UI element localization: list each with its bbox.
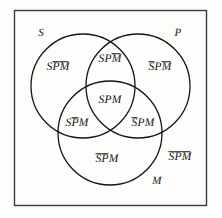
region-outside-all: SPM bbox=[169, 152, 192, 164]
region-term-m-bar: M bbox=[162, 62, 172, 74]
region-term-m-bar: M bbox=[112, 54, 122, 66]
region-term-m: M bbox=[112, 94, 122, 106]
region-term-m: M bbox=[109, 153, 119, 165]
region-term-m-bar: M bbox=[60, 62, 70, 74]
circle-label-m: M bbox=[152, 176, 161, 187]
region-term-m-bar: M bbox=[182, 152, 192, 164]
region-p-only: SPM bbox=[149, 62, 172, 74]
circle-label-s: S bbox=[38, 28, 44, 39]
region-term-s-bar: S bbox=[132, 118, 138, 130]
region-term-p-bar: P bbox=[101, 154, 108, 166]
region-s-only: SPM bbox=[47, 62, 70, 74]
region-term-m: M bbox=[145, 117, 155, 129]
region-m-only: SPM bbox=[96, 154, 119, 166]
region-spm-center: SPM bbox=[99, 95, 122, 107]
region-term-p-bar: P bbox=[71, 118, 78, 130]
region-sp-not-m: SPM bbox=[99, 54, 122, 66]
region-sm-not-p: SPM bbox=[66, 118, 89, 130]
region-pm-not-s: SPM bbox=[132, 118, 155, 130]
region-term-s-bar: S bbox=[149, 62, 155, 74]
venn-diagram-canvas bbox=[0, 0, 222, 218]
venn-diagram-figure: S P M SPM SPM SPM SPM SPM SPM SPM SPM bbox=[0, 0, 222, 218]
region-term-m: M bbox=[79, 117, 89, 129]
circle-label-p: P bbox=[175, 28, 182, 39]
universe-box bbox=[15, 11, 207, 206]
